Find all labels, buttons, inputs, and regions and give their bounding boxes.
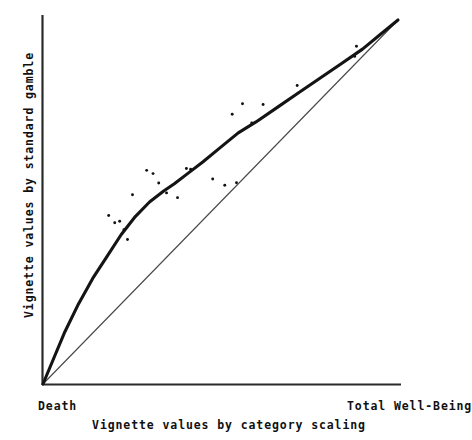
x-axis-max-label: Total Well-Being — [347, 399, 472, 413]
scatter-point — [355, 45, 358, 48]
scatter-point — [145, 169, 148, 172]
scatter-points-group — [107, 45, 358, 241]
scatter-point — [152, 172, 155, 175]
scatter-point — [250, 122, 253, 125]
scatter-point — [211, 178, 214, 181]
y-axis-title: Vignette values by standard gamble — [22, 0, 40, 370]
scatter-point — [235, 181, 238, 184]
scatter-point — [126, 238, 129, 241]
scatter-point — [131, 193, 134, 196]
scatter-point — [223, 184, 226, 187]
scatter-point — [118, 220, 121, 223]
scatter-point — [107, 214, 110, 217]
scatter-point — [113, 221, 116, 224]
scatter-point — [296, 84, 299, 87]
scatter-point — [176, 196, 179, 199]
scatter-point — [185, 167, 188, 170]
scatter-point — [189, 168, 192, 171]
x-axis-min-label: Death — [38, 399, 77, 413]
scatter-point — [157, 182, 160, 185]
scatter-point — [353, 55, 356, 58]
scatter-point — [262, 103, 265, 106]
identity-reference-line — [43, 20, 398, 384]
scatter-point — [231, 113, 234, 116]
scatter-point — [165, 191, 168, 194]
identity-reference-line-group — [43, 20, 398, 384]
x-axis-title: Vignette values by category scaling — [0, 418, 458, 432]
scatter-point — [122, 228, 125, 231]
scatter-point — [241, 102, 244, 105]
